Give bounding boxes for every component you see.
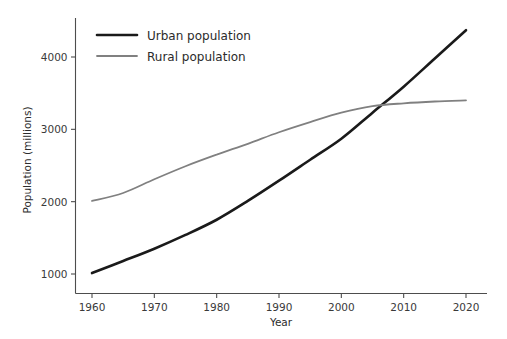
series-group	[92, 30, 466, 273]
x-tick-label: 1960	[79, 301, 106, 313]
series-line-rural-population	[92, 100, 466, 201]
x-tick-label: 2020	[453, 301, 480, 313]
x-axis-ticks: 1960197019801990200020102020	[79, 294, 480, 313]
y-tick-label: 1000	[41, 268, 68, 280]
x-tick-label: 1990	[266, 301, 293, 313]
line-chart-canvas: 1000200030004000 19601970198019902000201…	[0, 0, 507, 339]
series-line-urban-population	[92, 30, 466, 273]
x-axis-title: Year	[269, 316, 293, 328]
chart-legend: Urban populationRural population	[97, 29, 251, 64]
y-axis-ticks: 1000200030004000	[41, 51, 76, 280]
x-tick-label: 2010	[390, 301, 417, 313]
y-axis-title: Population (millions)	[21, 106, 33, 213]
x-tick-label: 2000	[328, 301, 355, 313]
legend-label: Urban population	[147, 29, 251, 43]
y-tick-label: 4000	[41, 51, 68, 63]
chart-figure: 1000200030004000 19601970198019902000201…	[0, 0, 507, 339]
y-tick-label: 3000	[41, 123, 68, 135]
legend-label: Rural population	[147, 50, 246, 64]
x-tick-label: 1980	[203, 301, 230, 313]
y-tick-label: 2000	[41, 196, 68, 208]
x-tick-label: 1970	[141, 301, 168, 313]
